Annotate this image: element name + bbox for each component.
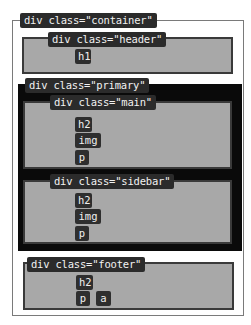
footer-h2-tag: h2 (76, 275, 93, 290)
h1-tag: h1 (75, 49, 91, 64)
main-label: div class="main" (50, 95, 156, 110)
header-label: div class="header" (48, 32, 166, 47)
footer-label: div class="footer" (27, 257, 145, 272)
footer-p-tag: p (76, 291, 90, 306)
sidebar-img-tag: img (75, 209, 101, 224)
primary-label: div class="primary" (25, 78, 149, 93)
sidebar-box (23, 180, 232, 244)
container-label: div class="container" (20, 13, 157, 28)
sidebar-label: div class="sidebar" (50, 174, 174, 189)
main-box (23, 101, 232, 169)
footer-a-tag: a (96, 291, 111, 306)
main-p-tag: p (75, 150, 89, 165)
main-img-tag: img (75, 133, 101, 148)
sidebar-p-tag: p (75, 226, 89, 241)
main-h2-tag: h2 (75, 117, 92, 132)
sidebar-h2-tag: h2 (75, 193, 92, 208)
